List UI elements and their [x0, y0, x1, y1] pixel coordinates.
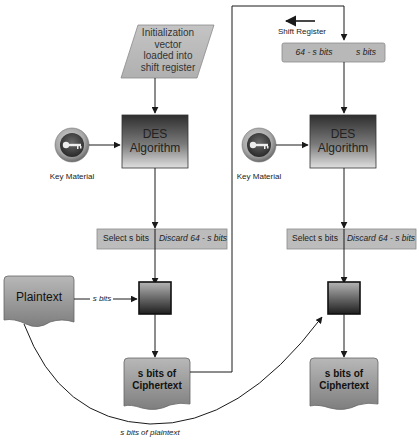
- discard-bits-right: Discard 64 - s bits: [345, 234, 417, 244]
- key-material-label-left: Key Material: [42, 172, 102, 181]
- plaintext-label: Plaintext: [4, 291, 74, 305]
- key-material-label-right: Key Material: [229, 172, 289, 181]
- shift-register-label: Shift Register: [272, 27, 332, 36]
- cfb-diagram: Initialization vector loaded into shift …: [0, 0, 419, 442]
- s-bits-of-plaintext-label: s bits of plaintext: [100, 428, 200, 437]
- discard-bits-left: Discard 64 - s bits: [157, 234, 229, 244]
- iv-label: Initialization vector loaded into shift …: [130, 27, 206, 73]
- des-label-left: DES Algorithm: [122, 128, 188, 156]
- cipher-label-left: s bits of Ciphertext: [124, 368, 190, 391]
- key-icon-right: [242, 128, 276, 162]
- key-icon-left: [55, 128, 89, 162]
- register-64-minus-s: 64 - s bits: [288, 48, 340, 58]
- xor-box-right: [328, 282, 360, 314]
- des-label-right: DES Algorithm: [310, 128, 376, 156]
- select-s-bits-right: Select s bits: [287, 234, 343, 244]
- select-s-bits-left: Select s bits: [97, 234, 155, 244]
- register-s-bits: s bits: [348, 48, 384, 58]
- cipher-label-right: s bits of Ciphertext: [310, 368, 378, 391]
- xor-box-left: [139, 282, 171, 314]
- s-bits-label: s bits: [89, 294, 115, 303]
